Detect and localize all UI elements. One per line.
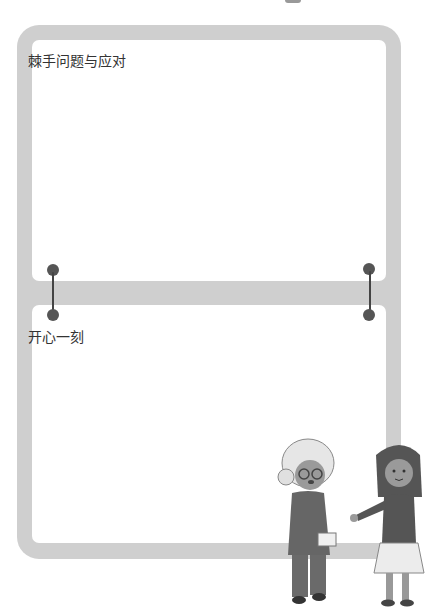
grandma-and-girl-illustration (268, 405, 426, 615)
binder-cord (369, 271, 371, 312)
section-title-happy-moment: 开心一刻 (28, 326, 84, 346)
binder-cord (52, 272, 54, 312)
top-edge-mark (285, 0, 301, 3)
binder-pin-icon (47, 309, 59, 321)
panel-tricky-problems[interactable] (32, 40, 386, 281)
section-title-tricky-problems: 棘手问题与应对 (28, 50, 126, 70)
binder-pin-icon (363, 309, 375, 321)
